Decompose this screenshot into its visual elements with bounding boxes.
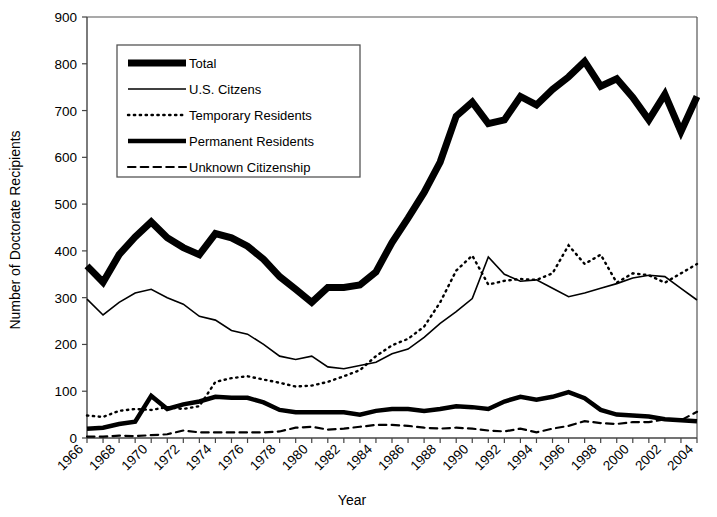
- legend-label-total: Total: [189, 56, 217, 71]
- y-tick-label: 600: [54, 150, 77, 165]
- y-tick-label: 700: [54, 104, 77, 119]
- legend-label-unknown-citizenship: Unknown Citizenship: [189, 160, 310, 175]
- chart-figure: Number of Doctorate Recipients Year 0100…: [0, 0, 717, 517]
- y-tick-label: 300: [54, 291, 77, 306]
- y-tick-label: 200: [54, 337, 77, 352]
- y-tick-label: 900: [54, 10, 77, 25]
- y-tick-label: 500: [54, 197, 77, 212]
- legend-label-us-citizens: U.S. Citzens: [189, 82, 262, 97]
- doctorate-recipients-line-chart: Number of Doctorate Recipients Year 0100…: [0, 0, 717, 517]
- chart-legend: TotalU.S. CitzensTemporary ResidentsPerm…: [117, 45, 360, 177]
- x-axis-title: Year: [338, 492, 367, 508]
- legend-label-permanent-residents: Permanent Residents: [189, 134, 315, 149]
- y-axis-title: Number of Doctorate Recipients: [7, 130, 23, 329]
- legend-label-temporary-residents: Temporary Residents: [189, 108, 312, 123]
- y-tick-label: 100: [54, 384, 77, 399]
- y-tick-label: 800: [54, 57, 77, 72]
- y-tick-label: 400: [54, 244, 77, 259]
